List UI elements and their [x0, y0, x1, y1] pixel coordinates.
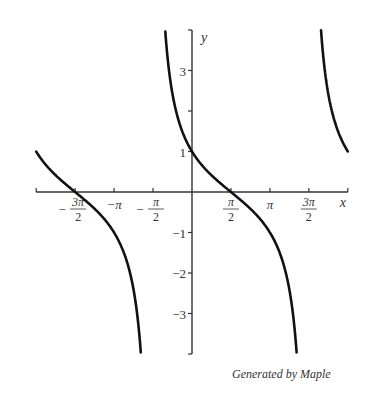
x-tick-numerator: π: [228, 195, 235, 209]
x-tick-label: −π: [106, 197, 122, 212]
y-tick-label: −3: [172, 307, 186, 322]
x-tick-denominator: 2: [228, 210, 234, 224]
x-tick-sign: −: [58, 202, 65, 217]
y-axis-label: y: [199, 30, 208, 45]
y-tick-label: −2: [172, 266, 186, 281]
x-tick-denominator: 2: [153, 210, 159, 224]
function-curve: [321, 30, 348, 151]
plot-area: −3π2−π−π2π2π3π231−1−2−3xy: [0, 0, 376, 401]
x-tick-denominator: 2: [306, 210, 312, 224]
x-tick-sign: −: [136, 202, 143, 217]
x-tick-denominator: 2: [75, 210, 81, 224]
x-axis-label: x: [339, 195, 347, 210]
credit-text: Generated by Maple: [232, 367, 331, 382]
x-tick-numerator: π: [153, 195, 160, 209]
x-tick-numerator: 3π: [302, 195, 316, 209]
y-tick-label: 1: [180, 145, 187, 160]
function-curve: [36, 152, 141, 353]
y-tick-label: 3: [180, 64, 187, 79]
y-tick-label: −1: [172, 226, 186, 241]
x-tick-label: π: [267, 197, 274, 212]
